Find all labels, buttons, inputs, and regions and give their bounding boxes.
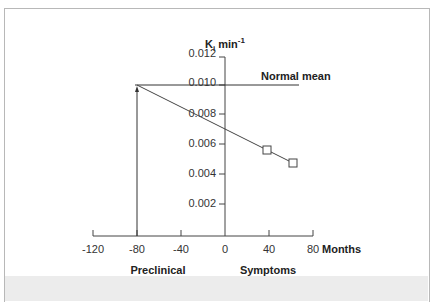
x-ticks: -120 -80 -40 0 40 80 — [82, 230, 319, 255]
preclinical-label: Preclinical — [130, 264, 185, 276]
symptoms-label: Symptoms — [240, 264, 296, 276]
svg-text:0.002: 0.002 — [188, 197, 216, 209]
svg-text:0.012: 0.012 — [188, 47, 216, 59]
svg-text:0.010: 0.010 — [188, 76, 216, 88]
svg-text:0.006: 0.006 — [188, 137, 216, 149]
data-marker-square — [263, 146, 271, 154]
svg-text:-40: -40 — [173, 243, 189, 255]
data-marker-square — [289, 159, 297, 167]
svg-text:-80: -80 — [129, 243, 145, 255]
svg-text:80: 80 — [307, 243, 319, 255]
y-ticks: 0.012 0.010 0.008 0.006 0.004 0.002 — [188, 47, 225, 209]
x-axis-label: Months — [322, 243, 361, 255]
svg-text:40: 40 — [263, 243, 275, 255]
svg-text:0: 0 — [222, 243, 228, 255]
normal-mean-label: Normal mean — [261, 70, 331, 82]
svg-text:0.004: 0.004 — [188, 167, 216, 179]
arrow-head-icon — [135, 86, 139, 92]
svg-text:-120: -120 — [82, 243, 104, 255]
